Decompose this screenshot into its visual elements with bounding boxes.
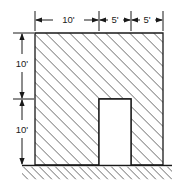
arrow-left-5ft-1 — [99, 17, 106, 22]
dim-label-top-10ft: 10' — [62, 14, 75, 25]
top-dimension-group: 10' 5' 5' — [35, 11, 163, 31]
dim-label-top-5ft-1: 5' — [111, 14, 118, 25]
arrow-right-5ft-1 — [124, 17, 131, 22]
dim-label-top-5ft-2: 5' — [143, 14, 150, 25]
arrow-left-5ft-2 — [131, 17, 138, 22]
arrow-up-lower — [19, 99, 24, 106]
left-dimension-group: 10' 10' — [13, 33, 34, 165]
ground — [22, 166, 172, 180]
dim-label-left-lower-10ft: 10' — [16, 124, 29, 135]
wall-elevation-drawing: 10' 5' 5' 10' 10' — [0, 0, 179, 185]
arrow-down-lower — [19, 158, 24, 165]
technical-drawing-figure: 10' 5' 5' 10' 10' — [0, 0, 179, 185]
arrow-down-upper — [19, 92, 24, 99]
ground-hatch — [22, 167, 172, 180]
arrow-up-upper — [19, 33, 24, 40]
opening-fill — [99, 99, 131, 165]
door-opening — [99, 99, 131, 165]
arrow-right-10ft — [92, 17, 99, 22]
dim-label-left-upper-10ft: 10' — [16, 58, 29, 69]
arrow-right-5ft-2 — [156, 17, 163, 22]
arrow-left-10ft — [35, 17, 42, 22]
